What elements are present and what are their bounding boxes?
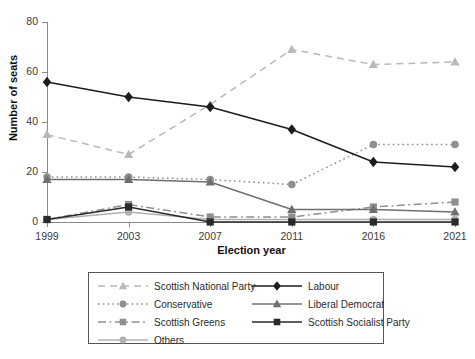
y-tick-label: 40 xyxy=(2,115,38,127)
x-tick-label: 2003 xyxy=(117,230,140,242)
line-chart: Number of seats Election year 020406080 … xyxy=(0,0,475,359)
chart-legend: Scottish National PartyConservativeScott… xyxy=(88,272,384,344)
legend-label: Others xyxy=(154,335,184,346)
legend-key-icon xyxy=(97,315,149,329)
legend-column-right: LabourLiberal DemocratScottish Socialist… xyxy=(251,278,391,332)
x-axis-title: Election year xyxy=(47,244,456,256)
legend-item[interactable]: Conservative xyxy=(97,296,247,312)
legend-label: Scottish National Party xyxy=(154,281,255,292)
y-tick-label: 80 xyxy=(2,15,38,27)
legend-item[interactable]: Labour xyxy=(251,278,391,294)
legend-key-icon xyxy=(97,297,149,311)
x-tick-label: 1999 xyxy=(35,230,58,242)
legend-item[interactable]: Scottish Greens xyxy=(97,314,247,330)
legend-key-icon xyxy=(97,333,149,347)
y-tick-label: 0 xyxy=(2,215,38,227)
x-tick-label: 2011 xyxy=(281,230,304,242)
y-tick-label: 20 xyxy=(2,165,38,177)
legend-label: Liberal Democrat xyxy=(308,299,384,310)
legend-column-left: Scottish National PartyConservativeScott… xyxy=(97,278,247,350)
x-tick-label: 2016 xyxy=(362,230,385,242)
legend-key-icon xyxy=(251,315,303,329)
series-liberal-democrat xyxy=(42,175,459,216)
legend-item[interactable]: Scottish National Party xyxy=(97,278,247,294)
y-axis-title: Number of seats xyxy=(7,33,19,163)
legend-label: Conservative xyxy=(154,299,212,310)
legend-label: Labour xyxy=(308,281,339,292)
x-tick-mark xyxy=(129,222,130,227)
legend-key-icon xyxy=(97,279,149,293)
legend-item[interactable]: Scottish Socialist Party xyxy=(251,314,391,330)
x-tick-label: 2007 xyxy=(199,230,222,242)
series-scottish-national-party xyxy=(42,45,459,158)
legend-label: Scottish Greens xyxy=(154,317,225,328)
series-conservative xyxy=(43,141,459,189)
plot-area xyxy=(47,22,455,222)
legend-label: Scottish Socialist Party xyxy=(308,317,410,328)
legend-key-icon xyxy=(251,297,303,311)
series-layer xyxy=(47,22,455,222)
series-labour xyxy=(43,77,459,172)
y-tick-label: 60 xyxy=(2,65,38,77)
x-tick-label: 2021 xyxy=(443,230,466,242)
legend-item[interactable]: Others xyxy=(97,332,247,348)
legend-item[interactable]: Liberal Democrat xyxy=(251,296,391,312)
legend-key-icon xyxy=(251,279,303,293)
